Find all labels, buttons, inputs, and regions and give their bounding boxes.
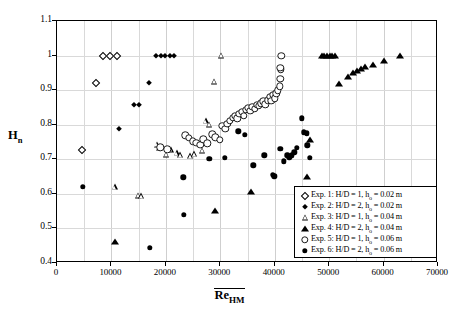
marker-filled-triangle [306,136,314,142]
marker-open-circle [278,52,285,59]
marker-open-circle [240,112,247,119]
y-tick-label: 0.6 [12,187,52,197]
legend-item: Exp. 5: H/D = 1, ho = 0.06 m [299,234,432,245]
marker-filled-triangle [303,173,311,179]
legend-marker [299,234,311,245]
marker-filled-triangle [335,81,343,87]
chart-root: Hn ReHM 01000020000300004000050000600007… [0,0,459,317]
gridline-vertical [248,21,249,261]
y-tick [52,158,56,159]
y-tick [52,262,56,263]
y-tick [52,124,56,125]
legend-marker [299,245,311,256]
marker-filled-triangle [396,52,404,58]
y-axis-title-sub: n [18,135,23,145]
y-axis-title: Hn [8,128,22,145]
marker-open-triangle [177,152,183,158]
marker-filled-diamond [136,102,142,108]
legend-marker [299,201,311,212]
gridline-vertical [84,21,85,261]
marker-filled-triangle [111,238,119,244]
marker-open-diamond [92,78,100,86]
legend-label: Exp. 1: H/D = 1, ho = 0.02 m [311,190,402,201]
x-tick-label: 0 [26,267,86,277]
y-axis-title-main: H [8,128,18,142]
marker-filled-circle [271,174,276,179]
marker-open-triangle [138,193,144,199]
marker-filled-circle [294,145,299,150]
y-tick-label: 0.5 [12,221,52,231]
legend-marker [299,190,311,201]
x-axis-title-sub: HM [229,295,245,305]
x-axis-title: ReHM [0,288,459,305]
marker-filled-circle [236,129,241,134]
marker-open-triangle [211,78,217,84]
legend-item: Exp. 3: H/D = 1, ho = 0.04 m [299,212,432,223]
marker-filled-circle [281,159,286,164]
legend-item: Exp. 4: H/D = 2, ho = 0.04 m [299,223,432,234]
marker-open-diamond [301,191,309,199]
marker-filled-triangle [301,225,309,231]
y-tick-label: 0.7 [12,152,52,162]
marker-filled-circle [147,245,152,250]
x-tick [437,262,438,266]
y-tick-label: 0.8 [12,118,52,128]
legend-marker [299,223,311,234]
marker-filled-diamond [146,79,152,85]
marker-open-triangle [206,121,212,127]
gridline-vertical [139,21,140,261]
legend-label: Exp. 4: H/D = 2, ho = 0.04 m [311,223,402,234]
marker-filled-diamond [302,203,308,209]
y-tick [52,89,56,90]
legend-marker [299,212,311,223]
legend-label: Exp. 2: H/D = 2, ho = 0.02 m [311,201,402,212]
marker-filled-triangle [211,207,219,213]
y-tick [52,55,56,56]
marker-filled-circle [181,212,186,217]
legend-item: Exp. 6: H/D = 2, ho = 0.06 m [299,245,432,256]
legend-label: Exp. 6: H/D = 2, ho = 0.06 m [311,245,402,256]
legend-item: Exp. 1: H/D = 1, ho = 0.02 m [299,190,432,201]
marker-filled-diamond [171,52,177,58]
marker-open-circle [276,83,283,90]
legend-label: Exp. 5: H/D = 1, ho = 0.06 m [311,234,402,245]
marker-filled-triangle [361,64,369,70]
legend-label-subscript: o [369,195,372,201]
x-tick-label: 10000 [80,267,140,277]
x-tick [110,262,111,266]
legend-label-subscript: o [369,206,372,212]
x-tick [274,262,275,266]
legend-label: Exp. 3: H/D = 1, ho = 0.04 m [311,212,402,223]
marker-filled-circle [207,156,212,161]
legend: Exp. 1: H/D = 1, ho = 0.02 mExp. 2: H/D … [294,186,437,258]
x-tick [165,262,166,266]
gridline-horizontal [57,90,436,91]
y-tick [52,193,56,194]
x-tick [328,262,329,266]
x-tick-label: 30000 [189,267,249,277]
marker-open-diamond [113,51,121,59]
marker-filled-circle [251,162,256,167]
marker-filled-triangle [369,61,377,67]
legend-item: Exp. 2: H/D = 2, ho = 0.02 m [299,201,432,212]
y-tick-label: 1.1 [12,14,52,24]
marker-open-circle [276,75,283,82]
marker-filled-circle [302,248,307,253]
gridline-horizontal [57,125,436,126]
marker-filled-triangle [247,189,255,195]
x-tick-label: 20000 [135,267,195,277]
marker-open-triangle [112,184,118,190]
gridline-horizontal [57,159,436,160]
marker-filled-triangle [380,57,388,63]
marker-open-circle [204,140,211,147]
marker-open-triangle [302,214,308,220]
legend-label-subscript: o [369,228,372,234]
x-tick [56,262,57,266]
marker-open-circle [216,136,223,143]
marker-filled-circle [299,116,304,121]
legend-label-subscript: o [369,239,372,245]
marker-filled-diamond [116,126,122,132]
x-tick-label: 60000 [353,267,413,277]
x-tick-label: 40000 [244,267,304,277]
marker-filled-circle [262,152,267,157]
